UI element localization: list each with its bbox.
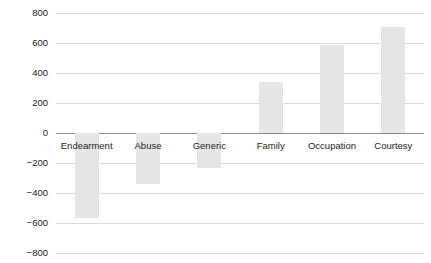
category-label: Family <box>257 141 285 151</box>
category-label: Abuse <box>135 141 162 151</box>
category-labels-layer: EndearmentAbuseGenericFamilyOccupationCo… <box>0 0 431 263</box>
category-label: Generic <box>193 141 226 151</box>
category-label: Occupation <box>308 141 356 151</box>
category-label: Endearment <box>61 141 113 151</box>
bar-chart: 8006004002000−200−400−600−800 Endearment… <box>0 0 431 263</box>
category-label: Courtesy <box>374 141 412 151</box>
